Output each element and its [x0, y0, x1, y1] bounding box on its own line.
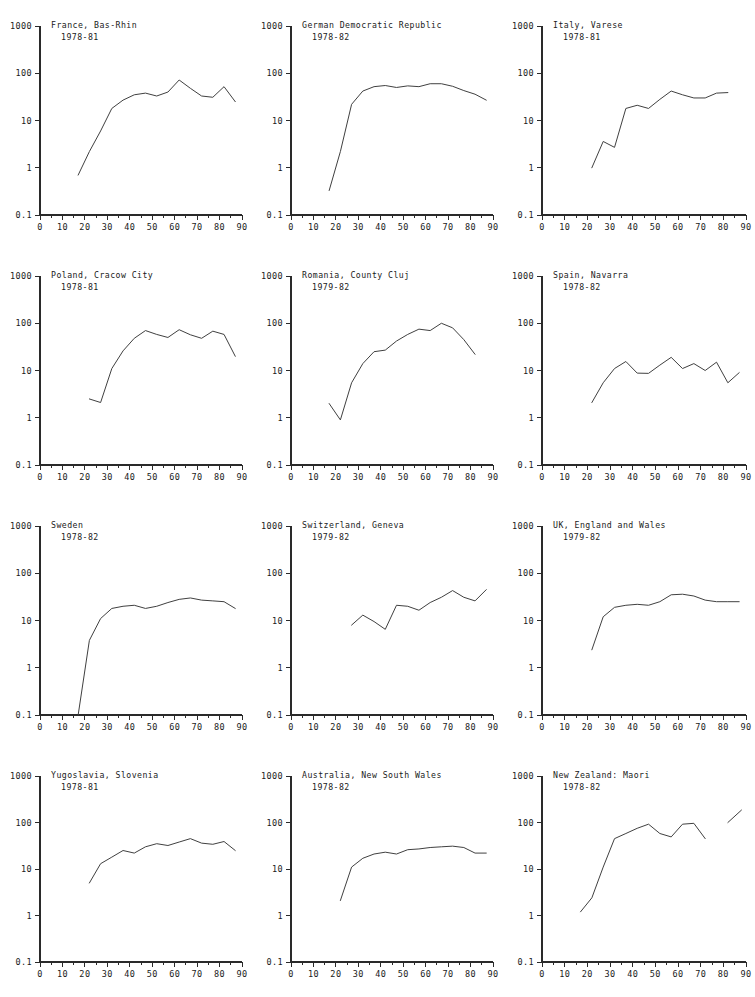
chart-panel: 10001001010.10102030405060708090Spain, N… — [502, 250, 755, 500]
y-tick-label: 10 — [21, 116, 32, 126]
chart-panel: 10001001010.10102030405060708090Italy, V… — [502, 0, 755, 250]
panel-subtitle: 1979-82 — [312, 532, 350, 542]
panel-subtitle: 1978-82 — [61, 532, 99, 542]
chart-panel: 10001001010.10102030405060708090France, … — [0, 0, 251, 250]
x-tick-label: 30 — [102, 969, 113, 979]
x-tick-label: 20 — [79, 222, 90, 232]
x-tick-label: 0 — [539, 472, 545, 482]
x-tick-label: 50 — [650, 222, 661, 232]
y-tick-label: 100 — [517, 818, 534, 828]
x-tick-label: 20 — [79, 472, 90, 482]
y-tick-label: 1 — [26, 911, 32, 921]
x-tick-label: 70 — [192, 722, 203, 732]
y-tick-label: 100 — [15, 318, 32, 328]
x-tick-label: 60 — [420, 472, 431, 482]
x-tick-label: 10 — [559, 722, 570, 732]
y-tick-label: 100 — [15, 68, 32, 78]
panel-subtitle: 1978-82 — [563, 782, 601, 792]
x-tick-label: 80 — [465, 969, 476, 979]
x-tick-label: 50 — [398, 222, 409, 232]
y-tick-label: 100 — [517, 318, 534, 328]
x-tick-label: 10 — [308, 969, 319, 979]
x-tick-label: 70 — [192, 969, 203, 979]
x-tick-label: 30 — [353, 472, 364, 482]
y-tick-label: 10 — [523, 616, 534, 626]
y-tick-label: 0.1 — [517, 210, 534, 220]
data-line — [89, 330, 235, 403]
y-tick-label: 1 — [528, 163, 534, 173]
x-tick-label: 60 — [672, 222, 683, 232]
x-tick-label: 50 — [398, 722, 409, 732]
x-tick-label: 20 — [582, 969, 593, 979]
x-tick-label: 50 — [147, 222, 158, 232]
panel-title: Romania, County Cluj — [302, 270, 410, 280]
y-tick-label: 1 — [277, 911, 283, 921]
x-tick-label: 80 — [465, 222, 476, 232]
x-tick-label: 20 — [330, 722, 341, 732]
chart-panel: 10001001010.10102030405060708090UK, Engl… — [502, 500, 755, 750]
y-tick-label: 1 — [528, 911, 534, 921]
panel-subtitle: 1978-82 — [312, 32, 350, 42]
x-tick-label: 0 — [288, 722, 294, 732]
y-tick-label: 1000 — [512, 521, 534, 531]
x-tick-label: 70 — [443, 222, 454, 232]
y-tick-label: 10 — [523, 366, 534, 376]
y-tick-label: 0.1 — [266, 710, 283, 720]
x-tick-label: 90 — [740, 472, 751, 482]
panel-subtitle: 1978-82 — [563, 282, 601, 292]
x-tick-label: 90 — [740, 222, 751, 232]
x-tick-label: 70 — [443, 722, 454, 732]
x-tick-label: 80 — [214, 722, 225, 732]
x-tick-label: 40 — [124, 222, 135, 232]
y-tick-label: 100 — [15, 818, 32, 828]
panel-grid: 10001001010.10102030405060708090France, … — [0, 0, 755, 997]
chart-panel: 10001001010.10102030405060708090Yugoslav… — [0, 750, 251, 997]
x-tick-label: 90 — [236, 472, 247, 482]
x-tick-label: 90 — [236, 722, 247, 732]
y-tick-label: 0.1 — [15, 710, 32, 720]
x-tick-label: 40 — [627, 722, 638, 732]
panel-title: New Zealand: Maori — [553, 770, 650, 780]
y-tick-label: 1000 — [512, 771, 534, 781]
x-tick-label: 40 — [375, 969, 386, 979]
y-tick-label: 10 — [21, 366, 32, 376]
x-tick-label: 70 — [443, 969, 454, 979]
x-tick-label: 40 — [124, 472, 135, 482]
x-tick-label: 10 — [308, 722, 319, 732]
x-tick-label: 0 — [539, 969, 545, 979]
y-tick-label: 100 — [15, 568, 32, 578]
y-tick-label: 100 — [517, 568, 534, 578]
y-tick-label: 0.1 — [266, 210, 283, 220]
x-tick-label: 70 — [695, 969, 706, 979]
x-tick-label: 50 — [650, 472, 661, 482]
data-line — [352, 590, 487, 630]
x-tick-label: 0 — [288, 969, 294, 979]
x-tick-label: 30 — [102, 472, 113, 482]
panel-subtitle: 1978-81 — [61, 782, 99, 792]
x-tick-label: 50 — [147, 472, 158, 482]
x-tick-label: 60 — [420, 222, 431, 232]
x-tick-label: 10 — [559, 222, 570, 232]
x-tick-label: 0 — [37, 472, 43, 482]
x-tick-label: 30 — [102, 222, 113, 232]
x-tick-label: 60 — [420, 969, 431, 979]
x-tick-label: 70 — [192, 472, 203, 482]
x-tick-label: 30 — [353, 222, 364, 232]
x-tick-label: 10 — [559, 969, 570, 979]
y-tick-label: 1000 — [261, 521, 283, 531]
x-tick-label: 80 — [214, 472, 225, 482]
panel-title: Italy, Varese — [553, 20, 623, 30]
panel-subtitle: 1979-82 — [563, 532, 601, 542]
chart-panel: 10001001010.10102030405060708090Sweden19… — [0, 500, 251, 750]
x-tick-label: 50 — [147, 969, 158, 979]
y-tick-label: 1 — [277, 663, 283, 673]
x-tick-label: 50 — [650, 722, 661, 732]
y-tick-label: 1 — [26, 413, 32, 423]
data-line — [340, 846, 486, 900]
x-tick-label: 50 — [398, 472, 409, 482]
x-tick-label: 70 — [695, 722, 706, 732]
y-tick-label: 1 — [26, 163, 32, 173]
x-tick-label: 60 — [672, 472, 683, 482]
y-tick-label: 100 — [266, 818, 283, 828]
x-tick-label: 10 — [308, 472, 319, 482]
